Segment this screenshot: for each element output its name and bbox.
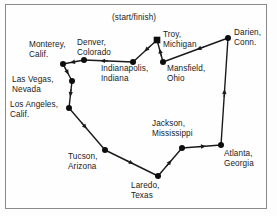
direction-arrow-indianapolis-to-denver xyxy=(100,59,105,63)
city-marker-troy xyxy=(154,37,161,44)
city-label-laredo: Laredo, Texas xyxy=(131,181,159,200)
city-marker-atlanta xyxy=(218,142,224,148)
city-label-indianapolis: Indianapolis, Indiana xyxy=(101,64,148,83)
city-marker-darien xyxy=(225,35,231,41)
city-marker-lasvegas xyxy=(69,78,75,84)
city-marker-tucson xyxy=(102,147,108,153)
direction-arrow-tail-denver-to-monterey xyxy=(75,61,78,62)
city-marker-monterey xyxy=(60,61,66,67)
direction-arrow-tail-tucson-to-laredo xyxy=(127,161,130,162)
city-label-troy: Troy, Michigan xyxy=(163,30,197,49)
direction-arrow-atlanta-to-darien xyxy=(222,89,226,94)
city-label-darien: Darien, Conn. xyxy=(234,28,261,47)
city-marker-jackson xyxy=(179,145,185,151)
direction-arrow-tail-losangeles-to-tucson xyxy=(82,123,84,125)
start-finish-label: (start/finish) xyxy=(112,13,156,23)
city-label-lasvegas: Las Vegas, Nevada xyxy=(12,75,54,94)
city-label-tucson: Tucson, Arizona xyxy=(68,152,98,171)
route-leg-losangeles-to-tucson xyxy=(69,108,105,150)
direction-arrow-darien-to-mansfield xyxy=(196,46,201,50)
city-label-monterey: Monterey, Calif. xyxy=(29,40,66,59)
direction-arrow-tail-mansfield-to-troy xyxy=(161,53,162,56)
route-leg-indianapolis-to-denver xyxy=(84,60,133,62)
direction-arrow-denver-to-monterey xyxy=(70,60,75,64)
city-label-mansfield: Mansfield, Ohio xyxy=(167,64,205,83)
direction-arrow-jackson-to-atlanta xyxy=(201,144,206,148)
direction-arrow-tail-troy-to-indianapolis xyxy=(148,46,150,48)
city-marker-losangeles xyxy=(66,105,72,111)
city-marker-laredo xyxy=(155,173,161,179)
city-label-denver: Denver, Colorado xyxy=(77,38,111,57)
direction-arrow-tail-laredo-to-jackson xyxy=(166,164,168,166)
city-marker-denver xyxy=(81,57,87,63)
city-label-jackson: Jackson, Mississippi xyxy=(152,119,193,138)
city-label-losangeles: Los Angeles, Calif. xyxy=(10,100,58,119)
direction-arrow-tail-monterey-to-lasvegas xyxy=(65,68,66,71)
city-marker-mansfield xyxy=(160,59,166,65)
city-label-atlanta: Atlanta, Georgia xyxy=(224,149,254,168)
